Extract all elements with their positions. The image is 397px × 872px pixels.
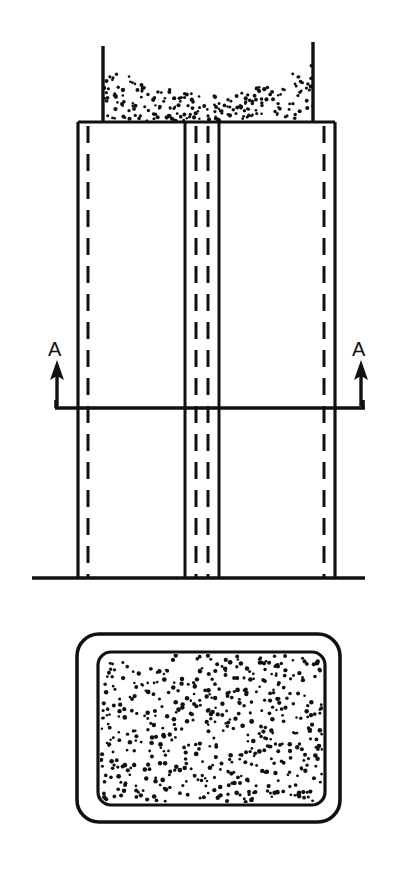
stipple-dot <box>121 104 123 106</box>
stipple-dot <box>113 688 116 691</box>
stipple-dot <box>129 767 132 770</box>
stipple-dot <box>100 752 104 756</box>
stipple-dot <box>314 765 317 768</box>
stipple-dot <box>235 665 238 668</box>
stipple-dot <box>268 711 272 715</box>
stipple-dot <box>288 785 291 788</box>
stipple-dot <box>307 757 310 760</box>
stipple-dot <box>170 738 173 741</box>
stipple-dot <box>179 100 182 103</box>
stipple-dot <box>147 109 150 112</box>
stipple-dot <box>191 106 195 110</box>
stipple-dot <box>126 749 129 752</box>
stipple-dot <box>153 779 158 784</box>
stipple-dot <box>107 87 110 90</box>
stipple-dot <box>237 712 241 716</box>
stipple-dot <box>109 776 113 780</box>
stipple-dot <box>101 765 104 768</box>
stipple-dot <box>156 681 159 684</box>
stipple-dot <box>303 694 306 697</box>
stipple-dot <box>283 89 286 92</box>
stipple-dot <box>242 704 246 708</box>
stipple-dot <box>271 97 275 101</box>
stipple-dot <box>270 673 273 676</box>
stipple-dot <box>313 675 317 679</box>
stipple-dot <box>195 657 199 661</box>
engineering-drawing-svg: A A <box>0 0 397 872</box>
stipple-dot <box>164 800 167 803</box>
stipple-dot <box>113 107 117 111</box>
stipple-dot <box>198 669 201 672</box>
stipple-dot <box>298 75 300 77</box>
stipple-dot <box>223 667 228 672</box>
stipple-dot <box>135 784 138 787</box>
stipple-dot <box>122 707 126 711</box>
stipple-dot <box>244 96 248 100</box>
stipple-dot <box>234 790 239 795</box>
stipple-dot <box>238 781 242 785</box>
stipple-dot <box>246 93 249 96</box>
stipple-dot <box>164 754 167 757</box>
stipple-dot <box>167 750 170 753</box>
stipple-dot <box>165 714 169 718</box>
stipple-dot <box>232 727 236 731</box>
stipple-dot <box>119 781 122 784</box>
stipple-dot <box>202 104 206 108</box>
stipple-dot <box>118 715 121 718</box>
stipple-dot <box>190 767 193 770</box>
stipple-dot <box>109 668 112 671</box>
stipple-dot <box>277 701 281 705</box>
stipple-dot <box>283 654 287 658</box>
stipple-dot <box>163 673 166 676</box>
stipple-dot <box>300 747 304 751</box>
stipple-dot <box>168 786 171 789</box>
stipple-dot <box>288 108 291 111</box>
stipple-dot <box>150 754 154 758</box>
stipple-dot <box>294 732 297 735</box>
stipple-dot <box>123 116 126 119</box>
stipple-dot <box>204 777 207 780</box>
section-label-right: A <box>352 338 366 360</box>
stipple-dot <box>226 721 230 725</box>
stipple-dot <box>110 675 113 678</box>
stipple-dot <box>245 666 250 671</box>
stipple-dot <box>210 678 213 681</box>
stipple-dot <box>150 742 153 745</box>
stipple-dot <box>281 714 284 717</box>
stipple-dot <box>238 758 241 761</box>
stipple-dot <box>134 729 137 732</box>
stipple-dot <box>112 704 116 708</box>
stipple-dot <box>283 674 287 678</box>
stipple-dot <box>226 725 229 728</box>
stipple-dot <box>283 668 287 672</box>
stipple-dot <box>302 759 305 762</box>
stipple-dot <box>232 108 236 112</box>
stipple-dot <box>319 708 322 711</box>
stipple-dot <box>227 770 230 773</box>
stipple-dot <box>267 661 271 665</box>
stipple-dot <box>131 81 134 84</box>
stipple-dot <box>260 97 264 101</box>
stipple-dot <box>300 767 303 770</box>
stipple-dot <box>228 105 231 108</box>
stipple-dot <box>226 98 230 102</box>
stipple-dot <box>165 669 168 672</box>
stipple-dot <box>106 707 110 711</box>
stipple-dot <box>174 728 177 731</box>
stipple-dot <box>307 726 311 730</box>
stipple-dot <box>280 707 284 711</box>
stipple-dot <box>272 689 275 692</box>
stipple-dot <box>306 791 309 794</box>
stipple-dot <box>255 764 258 767</box>
stipple-dot <box>171 685 176 690</box>
stipple-dot <box>315 738 319 742</box>
stipple-dot <box>279 93 282 96</box>
stipple-dot <box>165 115 169 119</box>
stipple-dot <box>199 796 202 799</box>
stipple-dot <box>185 762 189 766</box>
stipple-dot <box>204 785 207 788</box>
stipple-dot <box>224 658 228 662</box>
stipple-dot <box>102 709 105 712</box>
stipple-dot <box>247 740 250 743</box>
stipple-dot <box>158 697 161 700</box>
